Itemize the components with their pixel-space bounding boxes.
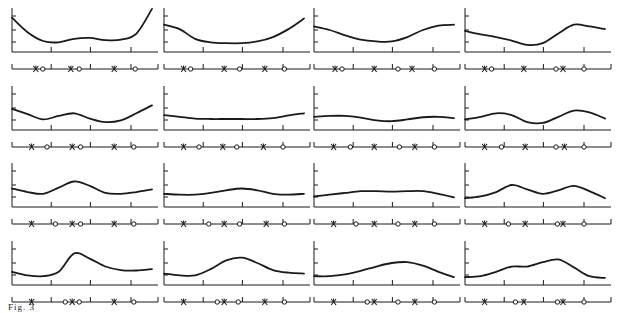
response-curve <box>164 113 304 119</box>
circle-marker-icon <box>207 222 211 226</box>
circle-marker-icon <box>132 145 136 149</box>
panel-plot <box>463 157 615 233</box>
circle-marker-icon <box>340 67 344 71</box>
circle-marker-icon <box>77 67 81 71</box>
circle-marker-icon <box>354 222 358 226</box>
circle-marker-icon <box>133 67 137 71</box>
response-curve <box>465 24 605 45</box>
response-curve <box>465 259 605 278</box>
circle-marker-icon <box>396 222 400 226</box>
line-plot-panel <box>162 235 312 313</box>
panel-plot <box>312 80 464 156</box>
line-plot-panel <box>312 2 462 80</box>
circle-marker-icon <box>53 222 57 226</box>
line-plot-panel <box>10 2 160 80</box>
line-plot-panel <box>162 2 312 80</box>
circle-marker-icon <box>348 145 352 149</box>
line-plot-panel <box>312 157 462 235</box>
circle-marker-icon <box>506 222 510 226</box>
figure-caption: Fig. 3 <box>8 302 35 312</box>
circle-marker-icon <box>132 300 136 304</box>
panel-plot <box>10 235 162 311</box>
circle-marker-icon <box>582 145 586 149</box>
response-curve <box>12 181 152 194</box>
circle-marker-icon <box>45 145 49 149</box>
circle-marker-icon <box>432 222 436 226</box>
line-plot-panel <box>162 80 312 158</box>
circle-marker-icon <box>282 67 286 71</box>
response-curve <box>314 116 454 121</box>
circle-marker-icon <box>197 145 201 149</box>
panel-plot <box>463 235 615 311</box>
circle-marker-icon <box>132 222 136 226</box>
circle-marker-icon <box>365 300 369 304</box>
response-curve <box>314 262 454 277</box>
response-curve <box>12 105 152 122</box>
circle-marker-icon <box>41 67 45 71</box>
circle-marker-icon <box>432 67 436 71</box>
circle-marker-icon <box>582 300 586 304</box>
line-plot-panel <box>162 157 312 235</box>
circle-marker-icon <box>554 145 558 149</box>
circle-marker-icon <box>237 222 241 226</box>
circle-marker-icon <box>236 300 240 304</box>
circle-marker-icon <box>554 67 558 71</box>
response-curve <box>465 185 605 198</box>
response-curve <box>314 25 454 42</box>
circle-marker-icon <box>396 67 400 71</box>
panel-plot <box>10 157 162 233</box>
circle-marker-icon <box>235 145 239 149</box>
circle-marker-icon <box>78 145 82 149</box>
panel-plot <box>162 235 314 311</box>
response-curve <box>12 9 152 43</box>
line-plot-panel <box>10 80 160 158</box>
line-plot-panel <box>463 80 613 158</box>
panel-plot <box>162 2 314 78</box>
line-plot-panel <box>10 157 160 235</box>
circle-marker-icon <box>215 300 219 304</box>
circle-marker-icon <box>282 222 286 226</box>
circle-marker-icon <box>237 67 241 71</box>
panel-plot <box>463 2 615 78</box>
line-plot-panel <box>463 157 613 235</box>
circle-marker-icon <box>582 222 586 226</box>
response-curve <box>12 253 152 277</box>
circle-marker-icon <box>397 145 401 149</box>
panel-plot <box>162 157 314 233</box>
line-plot-panel <box>463 2 613 80</box>
response-curve <box>164 258 304 276</box>
line-plot-panel <box>463 235 613 313</box>
panel-plot <box>463 80 615 156</box>
circle-marker-icon <box>432 145 436 149</box>
circle-marker-icon <box>513 300 517 304</box>
panel-plot <box>312 235 464 311</box>
line-plot-panel <box>312 80 462 158</box>
circle-marker-icon <box>499 145 503 149</box>
circle-marker-icon <box>282 300 286 304</box>
circle-marker-icon <box>396 300 400 304</box>
panel-plot <box>10 80 162 156</box>
circle-marker-icon <box>432 300 436 304</box>
circle-marker-icon <box>281 145 285 149</box>
response-curve <box>314 191 454 197</box>
line-plot-panel <box>312 235 462 313</box>
circle-marker-icon <box>77 300 81 304</box>
panel-plot <box>312 157 464 233</box>
circle-marker-icon <box>555 222 559 226</box>
circle-marker-icon <box>582 67 586 71</box>
response-curve <box>164 189 304 195</box>
circle-marker-icon <box>63 300 67 304</box>
circle-marker-icon <box>555 300 559 304</box>
response-curve <box>164 19 304 44</box>
panel-plot <box>312 2 464 78</box>
panel-plot <box>162 80 314 156</box>
circle-marker-icon <box>489 67 493 71</box>
response-curve <box>465 110 605 123</box>
circle-marker-icon <box>188 67 192 71</box>
panel-plot <box>10 2 162 78</box>
circle-marker-icon <box>78 222 82 226</box>
